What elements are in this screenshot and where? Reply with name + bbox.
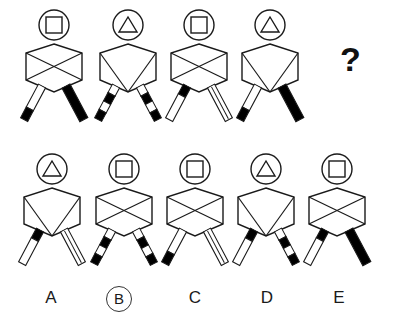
head-square-icon [191, 17, 207, 33]
head-square-icon [329, 161, 345, 177]
option-E[interactable] [301, 152, 373, 284]
option-B[interactable] [88, 152, 160, 284]
option-A[interactable] [16, 152, 88, 284]
figure-triangle-v-split [230, 152, 302, 280]
answer-label-row: ABCDE [0, 283, 394, 317]
puzzle-canvas: ?ABCDE [0, 0, 394, 331]
missing-figure-placeholder: ? [340, 40, 361, 79]
body-hexagon [242, 44, 298, 92]
body-hexagon [100, 44, 156, 92]
body-hexagon [238, 188, 294, 236]
option-C[interactable] [159, 152, 231, 284]
figure-square-x-cross [88, 152, 160, 280]
leg-left-white-with-black-foot [162, 228, 187, 265]
prompt-2 [92, 8, 164, 140]
leg-left-black-hip-white-foot [304, 228, 329, 265]
leg-right-striped [274, 228, 299, 265]
option-label-c[interactable]: C [178, 283, 212, 313]
option-label-a[interactable]: A [34, 283, 68, 313]
body-hexagon [96, 188, 152, 236]
body-hexagon [171, 44, 227, 92]
option-label-e[interactable]: E [322, 283, 356, 313]
figure-square-x-cross [159, 152, 231, 280]
leg-right-solid-black [345, 228, 371, 266]
option-D[interactable] [230, 152, 302, 284]
leg-left-white-with-black-foot [21, 84, 46, 121]
body-hexagon [309, 188, 365, 236]
leg-left-striped [95, 84, 120, 121]
option-label-b[interactable]: B [106, 286, 132, 312]
leg-right-solid-black [62, 84, 88, 122]
prompt-1 [18, 8, 90, 140]
figure-triangle-v-split [92, 8, 164, 136]
body-hexagon [24, 188, 80, 236]
figure-triangle-v-split [16, 152, 88, 280]
leg-left-black-hip-white-foot [233, 228, 258, 265]
leg-right-solid-black [278, 84, 304, 122]
prompt-4 [234, 8, 306, 140]
body-hexagon [26, 44, 82, 92]
figure-triangle-v-split [234, 8, 306, 136]
figure-square-x-cross [301, 152, 373, 280]
leg-right-striped [136, 84, 161, 121]
figure-square-x-cross [18, 8, 90, 136]
leg-right-outlined-white [203, 228, 228, 265]
leg-left-white-with-black-foot [237, 84, 262, 121]
option-label-d[interactable]: D [250, 283, 284, 313]
body-hexagon [167, 188, 223, 236]
leg-right-outlined-white [60, 228, 85, 265]
head-square-icon [116, 161, 132, 177]
leg-left-striped [91, 228, 116, 265]
leg-left-black-hip-white-foot [166, 84, 191, 121]
head-square-icon [187, 161, 203, 177]
leg-right-outlined-white [207, 84, 232, 121]
figure-square-x-cross [163, 8, 235, 136]
prompt-3 [163, 8, 235, 140]
leg-left-black-hip-white-foot [19, 228, 44, 265]
head-square-icon [46, 17, 62, 33]
leg-right-striped [132, 228, 157, 265]
